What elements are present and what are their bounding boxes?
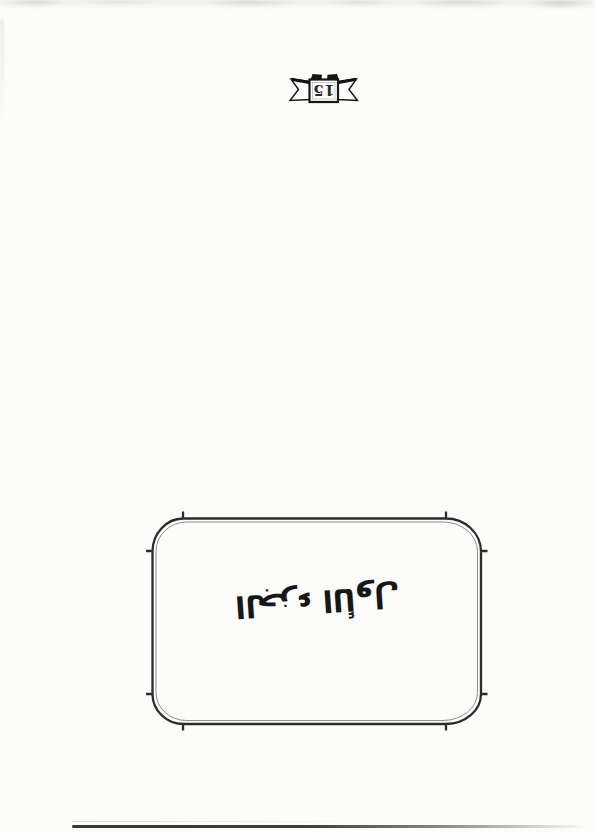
title-plaque: الجزء الأول	[222, 556, 414, 646]
page-number-ribbon: 15	[284, 66, 368, 110]
scanned-book-page: 15 الجزء الأول	[0, 0, 595, 833]
ribbon-right-tail	[338, 79, 358, 101]
scan-artifact-line	[72, 825, 588, 828]
volume-title-calligraphy: الجزء الأول	[234, 578, 401, 624]
page-number-text: 15	[313, 81, 335, 99]
ribbon-left-tail	[290, 79, 311, 101]
scan-noise-top-edge	[0, 0, 595, 12]
scan-smudge-left-edge	[0, 20, 4, 130]
scan-artifact-line-faint	[72, 821, 372, 822]
